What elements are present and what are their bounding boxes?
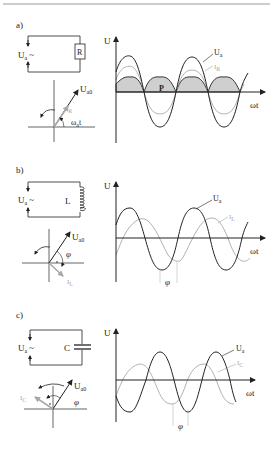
curve-i-label: IL (229, 213, 235, 222)
x-axis-label: ωt (246, 388, 255, 398)
phase-label: φ (178, 421, 183, 431)
curve-i-label: IC (237, 359, 243, 368)
rotation-arrow-icon (35, 247, 50, 254)
x-axis-label: ωt (250, 100, 259, 110)
y-axis-label: U (104, 328, 111, 338)
curve-u-label: Ua (213, 194, 222, 204)
x-axis-label: ωt (250, 246, 259, 256)
phasor-i-label: IL (67, 278, 73, 287)
curve-u-label: Ua (236, 344, 245, 354)
phase-label: φ (165, 277, 170, 287)
rotation-arrow-icon (39, 384, 64, 388)
phasor-angle-label: φ (74, 397, 79, 407)
rotation-arrow-icon (41, 110, 55, 117)
y-axis-label: U (104, 36, 111, 46)
source-label: Ua~ (18, 50, 34, 61)
phasor-u-label: Ua0 (80, 84, 92, 95)
component-label: C (64, 343, 70, 353)
source-label: Ua~ (18, 343, 34, 354)
inductor-coil-icon (80, 187, 85, 211)
phasor-u-label: Ua0 (74, 381, 86, 392)
panel-label: a) (16, 20, 23, 30)
component-label: L (65, 196, 71, 206)
current-phasor-arrow (35, 397, 53, 409)
power-label: P (159, 84, 164, 93)
source-label: Ua~ (18, 195, 34, 206)
panel-b: b) L Ua~ Ua0 φ IL (16, 165, 265, 287)
current-phasor-arrow (49, 263, 63, 276)
phasor-angle-label: ωat (71, 118, 82, 128)
phasor-diagram: Ua0 φ IC (20, 380, 87, 428)
capacitor-icon (74, 345, 91, 349)
phasor-u-label: Ua0 (72, 232, 84, 243)
ac-circuits-figure: a) R Ua~ Ua0 IR ωat (0, 0, 278, 454)
waveform-graph: U ωt φ Ua IC (104, 328, 255, 431)
waveform-graph: U ωt φ Ua IL (104, 181, 265, 287)
panel-c: c) C Ua~ Ua0 φ IC (16, 310, 255, 431)
curve-u-label: Ua (214, 48, 223, 58)
panel-label: b) (16, 165, 24, 175)
phasor-i-label: IC (20, 394, 26, 403)
panel-a: a) R Ua~ Ua0 IR ωat (16, 20, 265, 143)
y-axis-label: U (104, 181, 111, 191)
phasor-diagram: Ua0 IR ωat (28, 80, 95, 142)
waveform-graph: U ωt P Ua IR (104, 36, 265, 143)
phasor-diagram: Ua0 φ IL (22, 229, 84, 287)
panel-label: c) (16, 310, 23, 320)
current-curve (116, 218, 250, 261)
resistor-circuit: R Ua~ (18, 36, 85, 72)
component-label: R (77, 48, 83, 57)
capacitor-circuit: C Ua~ (18, 330, 91, 365)
curve-i-label: IR (214, 63, 220, 72)
phasor-angle-label: φ (66, 249, 71, 259)
phasor-i-label: IR (66, 105, 72, 114)
inductor-circuit: L Ua~ (18, 182, 85, 217)
